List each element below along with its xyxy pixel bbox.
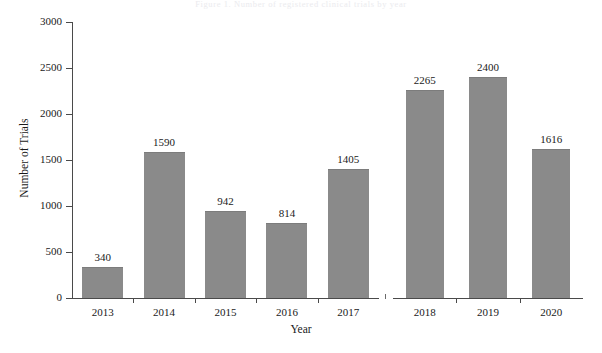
x-axis-title: Year <box>0 323 602 335</box>
bar-value-label: 2265 <box>395 74 455 86</box>
axis-break-tick <box>385 294 386 299</box>
bar-value-label: 1616 <box>521 133 581 145</box>
y-axis-tick <box>66 160 72 161</box>
y-axis-tick-label: 0 <box>22 292 62 303</box>
bar <box>469 77 507 298</box>
bar <box>328 169 369 298</box>
bar <box>266 223 307 298</box>
y-axis-tick-label: 3000 <box>22 16 62 27</box>
x-axis-tick <box>195 298 196 303</box>
y-axis-tick <box>66 298 72 299</box>
y-axis-title: Number of Trials <box>18 98 30 218</box>
x-axis-line-right-segment <box>393 298 583 299</box>
x-axis-tick-label: 2017 <box>318 306 378 318</box>
bar-value-label: 2400 <box>458 61 518 73</box>
y-axis-tick <box>66 114 72 115</box>
x-axis-tick-label: 2015 <box>196 306 256 318</box>
bar <box>406 90 444 298</box>
x-axis-tick-label: 2018 <box>395 306 455 318</box>
plot-area: 0500100015002000250030003402013159020149… <box>0 0 602 353</box>
y-axis-tick <box>66 22 72 23</box>
x-axis-tick-label: 2013 <box>73 306 133 318</box>
y-axis-tick-label: 2500 <box>22 62 62 73</box>
bar <box>532 149 570 298</box>
x-axis-line-left-segment <box>72 298 379 299</box>
bar <box>82 267 123 298</box>
x-axis-tick-label: 2016 <box>257 306 317 318</box>
bar-value-label: 942 <box>196 195 256 207</box>
bar-value-label: 340 <box>73 251 133 263</box>
bar-value-label: 1590 <box>134 136 194 148</box>
bar-value-label: 814 <box>257 207 317 219</box>
y-axis-tick <box>66 68 72 69</box>
x-axis-tick <box>133 298 134 303</box>
y-axis-tick <box>66 206 72 207</box>
x-axis-tick-label: 2014 <box>134 306 194 318</box>
x-axis-tick-label: 2020 <box>521 306 581 318</box>
x-axis-tick-label: 2019 <box>458 306 518 318</box>
bar <box>144 152 185 298</box>
bar <box>205 211 246 298</box>
x-axis-tick <box>318 298 319 303</box>
x-axis-tick <box>520 298 521 303</box>
bar-chart-figure: Figure 1. Number of registered clinical … <box>0 0 602 353</box>
bar-value-label: 1405 <box>318 153 378 165</box>
y-axis-tick-label: 500 <box>22 246 62 257</box>
y-axis-tick <box>66 252 72 253</box>
x-axis-tick <box>256 298 257 303</box>
x-axis-tick <box>456 298 457 303</box>
